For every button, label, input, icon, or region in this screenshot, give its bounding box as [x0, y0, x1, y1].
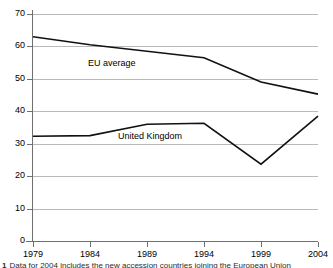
series-line-eu-average [33, 37, 318, 94]
footnote-number: 1 [2, 261, 6, 268]
footnote: 1Data for 2004 includes the new accessio… [2, 261, 325, 268]
footnote-text: Data for 2004 includes the new accession… [9, 261, 291, 268]
series-label-eu-average: EU average [86, 58, 138, 68]
series-label-united-kingdom: United Kingdom [116, 131, 184, 141]
